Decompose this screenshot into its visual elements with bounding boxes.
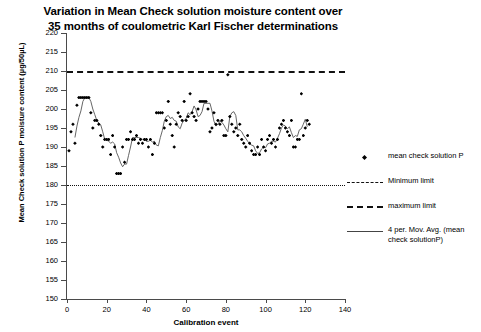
- y-axis-tick-label: 175: [38, 200, 58, 208]
- y-axis-tick-label: 170: [38, 219, 58, 227]
- x-axis-tick-label: 20: [95, 306, 119, 314]
- x-axis-tick-label: 0: [55, 306, 79, 314]
- x-axis-title: Calibration event: [67, 318, 345, 327]
- solid-line-icon: [345, 222, 385, 242]
- x-axis-tick-label: 100: [254, 306, 278, 314]
- legend-label: Minimum limit: [388, 176, 480, 186]
- y-axis-tick: [61, 204, 66, 205]
- chart-title: Variation in Mean Check solution moistur…: [28, 4, 358, 34]
- x-axis-tick: [345, 299, 346, 303]
- y-axis-tick: [61, 147, 66, 148]
- y-axis-title: Mean Check solution P moisture content (…: [17, 33, 26, 233]
- x-axis-tick-label: 80: [214, 306, 238, 314]
- thick-dashed-line-icon: [345, 198, 385, 218]
- legend-label-line-2: check solutionP): [388, 235, 443, 244]
- legend-label: 4 per. Mov. Avg. (meancheck solutionP): [388, 225, 480, 244]
- x-axis-tick-label: 40: [134, 306, 158, 314]
- x-axis-tick: [266, 299, 267, 303]
- x-axis-tick: [107, 299, 108, 303]
- y-axis-tick-label: 185: [38, 162, 58, 170]
- y-axis-tick-label: 150: [38, 295, 58, 303]
- x-axis-tick: [146, 299, 147, 303]
- y-axis-tick-label: 205: [38, 86, 58, 94]
- y-axis-tick-label: 195: [38, 124, 58, 132]
- y-axis-tick: [61, 242, 66, 243]
- moving-average-line: [67, 33, 345, 299]
- y-axis-tick-label: 220: [38, 29, 58, 37]
- y-axis-tick: [61, 128, 66, 129]
- legend-label-line-1: 4 per. Mov. Avg. (mean: [388, 225, 464, 234]
- y-axis-tick-label: 155: [38, 276, 58, 284]
- y-axis-tick: [61, 166, 66, 167]
- legend-item-minimum-limit: Minimum limit: [345, 173, 481, 193]
- y-axis-tick-label: 200: [38, 105, 58, 113]
- y-axis-tick: [61, 52, 66, 53]
- chart-title-line-1: Variation in Mean Check solution moistur…: [28, 4, 358, 19]
- legend-item-mean-check-solution-p: mean check solution P: [345, 148, 481, 168]
- y-axis-tick-label: 215: [38, 48, 58, 56]
- chart-legend: mean check solution P Minimum limit maxi…: [345, 148, 481, 246]
- dashed-line-icon: [345, 173, 385, 193]
- y-axis-tick: [61, 223, 66, 224]
- x-axis-tick: [67, 299, 68, 303]
- y-axis-tick: [61, 109, 66, 110]
- y-axis-tick-label: 165: [38, 238, 58, 246]
- x-axis-line: [66, 299, 346, 300]
- x-axis-tick-label: 120: [293, 306, 317, 314]
- x-axis-tick: [305, 299, 306, 303]
- legend-item-moving-average: 4 per. Mov. Avg. (meancheck solutionP): [345, 222, 481, 248]
- x-axis-tick-label: 140: [333, 306, 357, 314]
- chart-title-line-2: 35 months of coulometric Karl Fischer de…: [28, 19, 358, 34]
- legend-label: maximum limit: [388, 201, 480, 211]
- legend-label: mean check solution P: [388, 151, 480, 161]
- y-axis-tick: [61, 90, 66, 91]
- x-axis-tick: [226, 299, 227, 303]
- y-axis-tick: [61, 185, 66, 186]
- diamond-marker-icon: [345, 148, 385, 168]
- y-axis-tick-label: 160: [38, 257, 58, 265]
- x-axis-tick-label: 60: [174, 306, 198, 314]
- x-axis-tick: [186, 299, 187, 303]
- chart-figure: Variation in Mean Check solution moistur…: [0, 0, 481, 332]
- y-axis-tick-label: 210: [38, 67, 58, 75]
- y-axis-tick: [61, 299, 66, 300]
- plot-area: [67, 33, 345, 299]
- y-axis-tick: [61, 280, 66, 281]
- y-axis-tick: [61, 71, 66, 72]
- y-axis-tick: [61, 261, 66, 262]
- legend-item-maximum-limit: maximum limit: [345, 198, 481, 218]
- y-axis-tick-label: 190: [38, 143, 58, 151]
- y-axis-tick: [61, 33, 66, 34]
- y-axis-tick-label: 180: [38, 181, 58, 189]
